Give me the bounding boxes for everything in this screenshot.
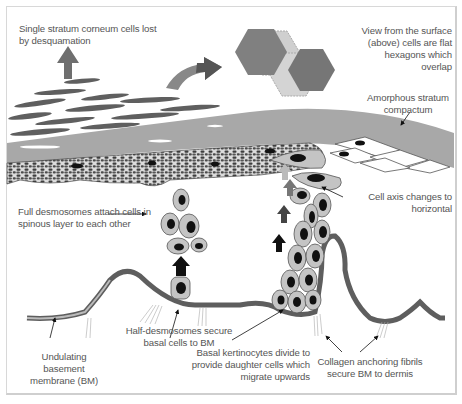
label-basal-keratinocytes: Basal kertinocytes divide to provide dau…	[160, 347, 310, 383]
label-desquamation: Single stratum corneum cells lost by des…	[19, 23, 156, 47]
label-cell-axis: Cell axis changes to horizontal	[340, 191, 452, 215]
desquamation-arrow-icon	[57, 46, 79, 79]
label-compactum: Amorphous stratum compactum	[362, 92, 454, 116]
up-arrow-icon	[172, 256, 190, 276]
label-surface-view: View from the surface (above) cells are …	[320, 25, 452, 73]
curved-arrow-icon	[166, 57, 222, 90]
label-half-desmosomes: Half-desmosomes secure basal cells to BM	[124, 325, 234, 349]
label-basement-membrane: Undulating basement membrane (BM)	[20, 351, 108, 387]
label-collagen-fibrils: Collagen anchoring fibrils secure BM to …	[305, 356, 435, 380]
spinous-cell-cluster	[161, 189, 207, 299]
migrating-cell-column	[270, 150, 341, 313]
basement-membrane	[27, 236, 445, 322]
label-full-desmosomes: Full desmosomes attach cells in spinous …	[18, 206, 151, 230]
